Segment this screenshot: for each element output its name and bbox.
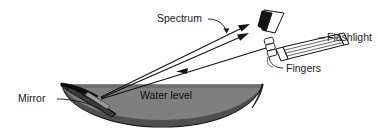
label-flashlight: Flashlight xyxy=(327,31,372,43)
reflected-ray-upper-arrowhead xyxy=(238,24,250,31)
spectrum-leader-line xyxy=(208,19,226,31)
diagram-canvas: Spectrum Flashlight Fingers Mirror Water… xyxy=(0,0,378,132)
water-surface xyxy=(62,85,263,88)
spectrum-leader-arrowhead xyxy=(223,28,229,33)
label-spectrum: Spectrum xyxy=(157,12,202,24)
label-water-level: Water level xyxy=(140,89,192,101)
spectrum-card-group xyxy=(258,10,284,33)
label-mirror: Mirror xyxy=(18,92,46,104)
incident-ray-arrowhead xyxy=(176,68,188,74)
optics-diagram-figure: Spectrum Flashlight Fingers Mirror Water… xyxy=(0,0,378,132)
label-fingers: Fingers xyxy=(286,62,321,74)
reflected-ray-lower-arrowhead xyxy=(237,33,249,41)
